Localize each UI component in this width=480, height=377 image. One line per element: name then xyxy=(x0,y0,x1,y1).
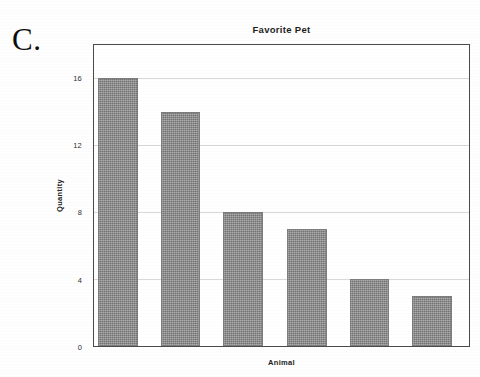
bar xyxy=(287,229,327,346)
x-axis-title: Animal xyxy=(93,358,470,367)
y-tick-label-16: 16 xyxy=(73,73,82,82)
gridline-12 xyxy=(94,145,469,146)
y-axis-tick-labels: 0 4 8 12 16 xyxy=(0,44,88,347)
y-tick-label-12: 12 xyxy=(73,141,82,150)
chart-title: Favorite Pet xyxy=(93,24,470,35)
gridline-4 xyxy=(94,279,469,280)
y-tick-label-0: 0 xyxy=(78,343,82,352)
bar xyxy=(350,279,390,346)
y-tick-label-8: 8 xyxy=(78,208,82,217)
y-tick-label-4: 4 xyxy=(78,275,82,284)
figure-root: C. Favorite Pet Quantity 0 4 8 12 16 Ani… xyxy=(0,0,480,377)
bar xyxy=(412,296,452,346)
plot-area xyxy=(93,44,470,347)
bar xyxy=(98,78,138,346)
bar xyxy=(223,212,263,346)
gridline-16 xyxy=(94,78,469,79)
bar xyxy=(161,112,201,346)
gridline-8 xyxy=(94,212,469,213)
